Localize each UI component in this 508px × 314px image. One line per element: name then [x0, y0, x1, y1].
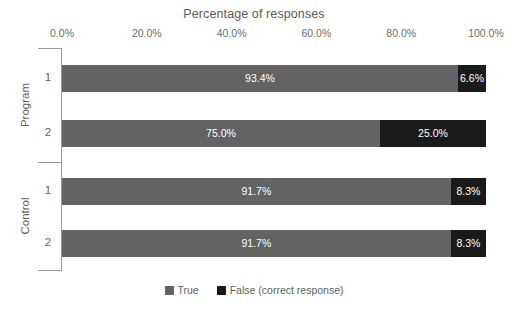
legend-label: True: [178, 284, 199, 296]
category-axis-label: 1: [38, 184, 58, 196]
x-axis-tick-label: 0.0%: [50, 27, 74, 39]
chart-title: Percentage of responses: [0, 7, 508, 21]
x-axis-tick-label: 20.0%: [132, 27, 162, 39]
x-axis-tick-label: 60.0%: [302, 27, 332, 39]
bar-segment-value-label: 93.4%: [245, 73, 275, 84]
bar-segment-value-label: 25.0%: [418, 128, 448, 139]
bar-segment[interactable]: 91.7%: [62, 178, 451, 205]
bar-segment-value-label: 75.0%: [206, 128, 236, 139]
bar-row: 93.4%6.6%: [62, 65, 486, 92]
x-axis-tick-label: 80.0%: [386, 27, 416, 39]
bar-segment-value-label: 8.3%: [456, 238, 480, 249]
legend-swatch-icon: [165, 286, 174, 295]
legend-label: False (correct response): [230, 284, 344, 296]
legend-entry[interactable]: False (correct response): [217, 284, 344, 296]
bar-segment[interactable]: 93.4%: [62, 65, 458, 92]
legend-entry[interactable]: True: [165, 284, 199, 296]
group-separator-tick: [38, 162, 62, 163]
x-axis-tick-label: 100.0%: [468, 27, 504, 39]
category-axis-label: 1: [38, 71, 58, 83]
bar-segment-value-label: 8.3%: [456, 186, 480, 197]
bar-segment-value-label: 6.6%: [460, 73, 484, 84]
legend-swatch-icon: [217, 286, 226, 295]
stacked-bar-chart: Percentage of responses 0.0%20.0%40.0%60…: [0, 0, 508, 314]
chart-legend: TrueFalse (correct response): [0, 284, 508, 296]
group-axis-label-text: Control: [19, 197, 31, 234]
bar-row: 75.0%25.0%: [62, 120, 486, 147]
group-separator-tick: [38, 270, 62, 271]
bar-segment[interactable]: 75.0%: [62, 120, 380, 147]
bar-segment-value-label: 91.7%: [242, 238, 272, 249]
bar-segment[interactable]: 6.6%: [458, 65, 486, 92]
x-axis-tick-label: 40.0%: [217, 27, 247, 39]
group-axis-label-control: Control: [14, 162, 36, 270]
bar-row: 91.7%8.3%: [62, 230, 486, 257]
category-axis-label: 2: [38, 126, 58, 138]
bar-segment[interactable]: 8.3%: [451, 178, 486, 205]
group-separator-tick: [38, 48, 62, 49]
category-axis-label: 2: [38, 236, 58, 248]
bar-segment[interactable]: 8.3%: [451, 230, 486, 257]
group-axis-label-program: Program: [14, 48, 36, 162]
x-axis-tick-labels: 0.0%20.0%40.0%60.0%80.0%100.0%: [0, 27, 508, 43]
group-axis-label-text: Program: [19, 83, 31, 127]
bar-row: 91.7%8.3%: [62, 178, 486, 205]
bar-segment-value-label: 91.7%: [242, 186, 272, 197]
bar-segment[interactable]: 91.7%: [62, 230, 451, 257]
bar-segment[interactable]: 25.0%: [380, 120, 486, 147]
